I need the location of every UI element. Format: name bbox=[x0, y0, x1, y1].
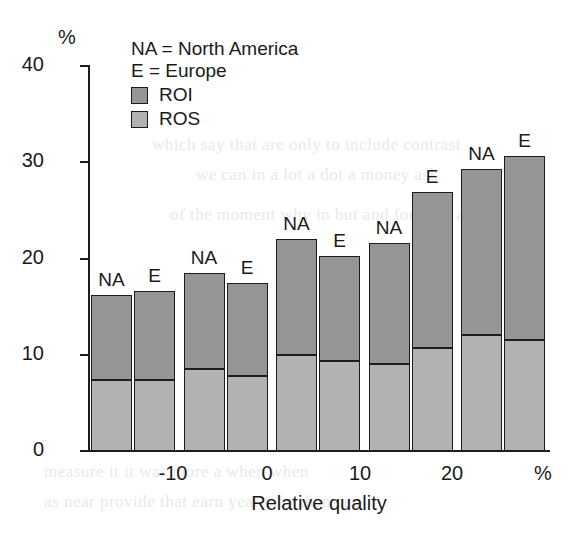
bar-group-5-e[interactable] bbox=[504, 156, 545, 451]
bar-segment-roi[interactable] bbox=[227, 283, 268, 376]
bar-label-na: NA bbox=[361, 218, 418, 238]
bar-group-1-e[interactable] bbox=[134, 291, 175, 451]
x-tick-label-10: 10 bbox=[330, 462, 390, 484]
bar-segment-roi[interactable] bbox=[134, 291, 175, 380]
bar-segment-roi[interactable] bbox=[412, 192, 453, 347]
bar-segment-roi[interactable] bbox=[91, 295, 132, 380]
bar-group-3-na[interactable] bbox=[276, 239, 317, 451]
bar-segment-roi[interactable] bbox=[276, 239, 317, 356]
x-tick-label-20: 20 bbox=[422, 462, 482, 484]
bar-group-1-na[interactable] bbox=[91, 295, 132, 451]
bar-segment-roi[interactable] bbox=[504, 156, 545, 340]
bar-label-e: E bbox=[311, 231, 368, 251]
bar-group-2-e[interactable] bbox=[227, 283, 268, 451]
bar-segment-roi[interactable] bbox=[369, 243, 410, 365]
bar-segment-roi[interactable] bbox=[184, 273, 225, 369]
bar-segment-ros[interactable] bbox=[91, 380, 132, 451]
bar-segment-roi[interactable] bbox=[461, 169, 502, 335]
bar-segment-roi[interactable] bbox=[319, 256, 360, 361]
bar-label-e: E bbox=[496, 131, 553, 151]
x-tick-label--10: -10 bbox=[143, 462, 203, 484]
bar-chart: % 40 30 20 10 0 NA = North America E = E… bbox=[0, 0, 580, 545]
bar-segment-ros[interactable] bbox=[319, 361, 360, 451]
bar-segment-ros[interactable] bbox=[369, 364, 410, 451]
bar-segment-ros[interactable] bbox=[184, 369, 225, 451]
bar-segment-ros[interactable] bbox=[227, 376, 268, 451]
bar-group-3-e[interactable] bbox=[319, 256, 360, 451]
bar-segment-ros[interactable] bbox=[134, 380, 175, 451]
bar-segment-ros[interactable] bbox=[412, 348, 453, 451]
x-axis-title: Relative quality bbox=[88, 492, 550, 515]
bar-label-e: E bbox=[404, 167, 461, 187]
bar-group-5-na[interactable] bbox=[461, 169, 502, 451]
bar-segment-ros[interactable] bbox=[504, 340, 545, 451]
bar-group-4-na[interactable] bbox=[369, 243, 410, 451]
bar-label-e: E bbox=[126, 266, 183, 286]
bar-segment-ros[interactable] bbox=[461, 335, 502, 451]
bar-group-4-e[interactable] bbox=[412, 192, 453, 451]
x-tick-label-0: 0 bbox=[237, 462, 297, 484]
bar-segment-ros[interactable] bbox=[276, 355, 317, 451]
bar-label-e: E bbox=[219, 258, 276, 278]
x-tick-label-unit: % bbox=[513, 462, 573, 484]
bar-group-2-na[interactable] bbox=[184, 273, 225, 451]
